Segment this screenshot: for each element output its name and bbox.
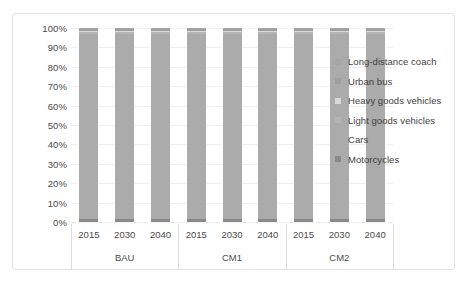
y-axis-tick-label: 90% bbox=[48, 42, 67, 53]
x-axis-year-label: 2030 bbox=[214, 224, 250, 245]
x-axis-year-label: 2015 bbox=[71, 224, 107, 245]
legend-item[interactable]: Light goods vehicles bbox=[335, 111, 455, 131]
x-axis-group-separator bbox=[393, 224, 394, 270]
bar-segment bbox=[187, 219, 206, 222]
legend-swatch-icon bbox=[335, 117, 341, 123]
x-axis-year-label: 2040 bbox=[357, 224, 393, 245]
bar-segment bbox=[223, 219, 242, 222]
bar-slot bbox=[250, 28, 286, 222]
x-axis-group-label: BAU bbox=[71, 245, 178, 270]
stacked-bar[interactable] bbox=[115, 28, 134, 222]
bar-slot bbox=[286, 28, 322, 222]
x-axis-group-separator bbox=[178, 224, 179, 270]
x-axis-year-label: 2040 bbox=[143, 224, 179, 245]
legend-item[interactable]: Heavy goods vehicles bbox=[335, 91, 455, 111]
gridline bbox=[71, 222, 393, 223]
stacked-bar[interactable] bbox=[187, 28, 206, 222]
stacked-bar[interactable] bbox=[79, 28, 98, 222]
y-axis-tick-label: 40% bbox=[48, 139, 67, 150]
legend-swatch-icon bbox=[335, 78, 341, 84]
bar-slot bbox=[143, 28, 179, 222]
bar-segment bbox=[294, 34, 313, 219]
y-axis-tick-label: 20% bbox=[48, 178, 67, 189]
bar-segment bbox=[330, 219, 349, 222]
legend-item-label: Heavy goods vehicles bbox=[348, 95, 441, 106]
legend-item[interactable]: Motorcycles bbox=[335, 150, 455, 170]
bar-segment bbox=[79, 219, 98, 222]
bar-segment bbox=[294, 219, 313, 222]
bar-segment bbox=[79, 34, 98, 219]
legend-swatch-icon bbox=[335, 156, 341, 162]
x-axis-year-label: 2030 bbox=[321, 224, 357, 245]
x-axis-group-separator bbox=[71, 224, 72, 270]
y-axis-tick-label: 10% bbox=[48, 197, 67, 208]
y-axis-tick-label: 70% bbox=[48, 81, 67, 92]
x-axis: 201520302040201520302040201520302040 BAU… bbox=[71, 224, 393, 270]
x-axis-year-label: 2015 bbox=[286, 224, 322, 245]
bar-slot bbox=[107, 28, 143, 222]
bar-segment bbox=[258, 34, 277, 219]
x-axis-group-row: BAUCM1CM2 bbox=[71, 245, 393, 270]
y-axis-tick-label: 30% bbox=[48, 158, 67, 169]
y-axis-tick-label: 100% bbox=[42, 23, 67, 34]
y-axis-tick-label: 60% bbox=[48, 100, 67, 111]
chart-legend: Long-distance coachUrban busHeavy goods … bbox=[335, 52, 455, 169]
x-axis-year-label: 2015 bbox=[178, 224, 214, 245]
chart-plot-wrapper: 100%90%80%70%60%50%40%30%20%10%0% 201520… bbox=[13, 14, 454, 269]
y-axis-tick-label: 50% bbox=[48, 120, 67, 131]
legend-item-label: Long-distance coach bbox=[348, 56, 437, 67]
legend-item[interactable]: Urban bus bbox=[335, 72, 455, 92]
y-axis-tick-label: 0% bbox=[53, 217, 67, 228]
bar-segment bbox=[258, 219, 277, 222]
legend-item-label: Urban bus bbox=[348, 76, 392, 87]
bar-segment bbox=[115, 34, 134, 219]
bar-slot bbox=[71, 28, 107, 222]
x-axis-year-row: 201520302040201520302040201520302040 bbox=[71, 224, 393, 245]
x-axis-group-separator bbox=[286, 224, 287, 270]
x-axis-year-label: 2030 bbox=[107, 224, 143, 245]
legend-item[interactable]: Long-distance coach bbox=[335, 52, 455, 72]
bar-slot bbox=[214, 28, 250, 222]
x-axis-group-label: CM1 bbox=[178, 245, 285, 270]
bar-segment bbox=[115, 219, 134, 222]
x-axis-group-label: CM2 bbox=[286, 245, 393, 270]
bar-segment bbox=[151, 34, 170, 219]
stacked-bar[interactable] bbox=[151, 28, 170, 222]
x-axis-year-label: 2040 bbox=[250, 224, 286, 245]
legend-item[interactable]: Cars bbox=[335, 130, 455, 150]
legend-swatch-icon bbox=[335, 59, 341, 65]
bar-segment bbox=[223, 34, 242, 219]
chart-frame: 100%90%80%70%60%50%40%30%20%10%0% 201520… bbox=[12, 13, 455, 270]
stacked-bar[interactable] bbox=[223, 28, 242, 222]
bar-segment bbox=[151, 219, 170, 222]
legend-swatch-icon bbox=[335, 98, 341, 104]
y-axis-tick-label: 80% bbox=[48, 61, 67, 72]
bar-segment bbox=[187, 34, 206, 219]
bar-segment bbox=[366, 219, 385, 222]
stacked-bar[interactable] bbox=[294, 28, 313, 222]
legend-swatch-icon bbox=[335, 137, 341, 143]
legend-item-label: Motorcycles bbox=[348, 154, 399, 165]
legend-item-label: Light goods vehicles bbox=[348, 115, 435, 126]
y-axis: 100%90%80%70%60%50%40%30%20%10%0% bbox=[27, 28, 67, 222]
legend-item-label: Cars bbox=[348, 134, 368, 145]
bar-slot bbox=[178, 28, 214, 222]
stacked-bar[interactable] bbox=[258, 28, 277, 222]
